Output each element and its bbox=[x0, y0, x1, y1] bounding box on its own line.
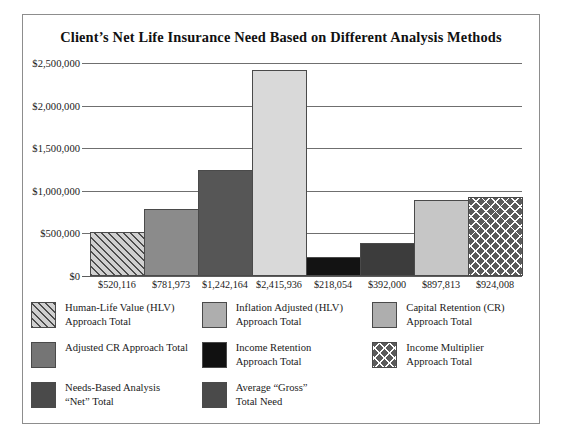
legend-label-line2: Approach Total bbox=[236, 355, 312, 369]
x-axis-tick-label: $392,000 bbox=[360, 279, 414, 290]
legend-row: Needs-Based Analysis“Net” TotalAverage “… bbox=[29, 381, 541, 421]
legend-label-line2: Approach Total bbox=[406, 315, 504, 329]
legend-label-line2: Approach Total bbox=[406, 355, 483, 369]
x-axis-tick-label: $218,054 bbox=[306, 279, 360, 290]
legend-label: Inflation Adjusted (HLV)Approach Total bbox=[236, 301, 343, 328]
bar-series bbox=[90, 63, 522, 276]
plot-area: $0$500,000$1,000,000$1,500,000$2,000,000… bbox=[90, 63, 522, 276]
x-axis-tick-label: $520,116 bbox=[90, 279, 144, 290]
legend-item[interactable]: Average “Gross”Total Need bbox=[200, 381, 371, 421]
legend-swatch bbox=[202, 342, 227, 368]
x-axis-line bbox=[82, 276, 522, 277]
legend-swatch bbox=[31, 342, 56, 368]
legend-swatch bbox=[372, 342, 397, 368]
legend-label: Needs-Based Analysis“Net” Total bbox=[65, 381, 160, 408]
legend-item[interactable]: Income MultiplierApproach Total bbox=[370, 341, 541, 381]
chart-title: Client’s Net Life Insurance Need Based o… bbox=[23, 29, 539, 46]
legend-label-line2: Approach Total bbox=[236, 315, 343, 329]
chart-frame: Client’s Net Life Insurance Need Based o… bbox=[22, 14, 540, 424]
legend-label: Average “Gross”Total Need bbox=[236, 381, 308, 408]
legend-swatch bbox=[202, 302, 227, 328]
y-axis-tick bbox=[82, 148, 90, 149]
bar bbox=[90, 232, 145, 276]
x-axis-tick-label: $897,813 bbox=[414, 279, 468, 290]
legend-swatch bbox=[31, 382, 56, 408]
x-axis-tick-label: $1,242,164 bbox=[198, 279, 252, 290]
bar bbox=[198, 170, 253, 276]
legend-item[interactable]: Capital Retention (CR)Approach Total bbox=[370, 301, 541, 341]
legend-item[interactable]: Inflation Adjusted (HLV)Approach Total bbox=[200, 301, 371, 341]
legend-item[interactable]: Income RetentionApproach Total bbox=[200, 341, 371, 381]
bar bbox=[252, 70, 307, 276]
y-axis-tick bbox=[82, 191, 90, 192]
legend-item[interactable]: Adjusted CR Approach Total bbox=[29, 341, 200, 381]
y-axis-tick-label: $1,000,000 bbox=[32, 185, 80, 196]
x-axis-tick-label: $2,415,936 bbox=[252, 279, 306, 290]
legend-item[interactable]: Needs-Based Analysis“Net” Total bbox=[29, 381, 200, 421]
legend-label: Income RetentionApproach Total bbox=[236, 341, 312, 368]
y-axis-tick-label: $2,500,000 bbox=[32, 58, 80, 69]
legend-item[interactable]: Human-Life Value (HLV)Approach Total bbox=[29, 301, 200, 341]
bar bbox=[414, 200, 469, 276]
x-axis-labels: $520,116$781,973$1,242,164$2,415,936$218… bbox=[90, 279, 522, 290]
bar bbox=[306, 257, 361, 276]
legend-label-line2: Approach Total bbox=[65, 315, 174, 329]
x-axis-tick-label: $781,973 bbox=[144, 279, 198, 290]
legend-label: Capital Retention (CR)Approach Total bbox=[406, 301, 504, 328]
legend-label: Human-Life Value (HLV)Approach Total bbox=[65, 301, 174, 328]
legend-swatch bbox=[372, 302, 397, 328]
legend-label-line2: Total Need bbox=[236, 395, 308, 409]
bar bbox=[360, 243, 415, 276]
legend-swatch bbox=[202, 382, 227, 408]
y-axis-tick-label: $2,000,000 bbox=[32, 100, 80, 111]
y-axis-tick bbox=[82, 233, 90, 234]
bar bbox=[144, 209, 199, 276]
y-axis-tick-label: $0 bbox=[69, 271, 80, 282]
legend-swatch bbox=[31, 302, 56, 328]
y-axis-tick bbox=[82, 106, 90, 107]
y-axis-tick bbox=[82, 63, 90, 64]
chart-legend: Human-Life Value (HLV)Approach TotalInfl… bbox=[29, 301, 541, 421]
legend-label: Income MultiplierApproach Total bbox=[406, 341, 483, 368]
legend-label-line2: “Net” Total bbox=[65, 395, 160, 409]
x-axis-tick-label: $924,008 bbox=[468, 279, 522, 290]
legend-row: Adjusted CR Approach TotalIncome Retenti… bbox=[29, 341, 541, 381]
y-axis-tick-label: $1,500,000 bbox=[32, 143, 80, 154]
legend-row: Human-Life Value (HLV)Approach TotalInfl… bbox=[29, 301, 541, 341]
legend-item-empty bbox=[370, 381, 541, 421]
bar bbox=[468, 197, 523, 276]
legend-label: Adjusted CR Approach Total bbox=[65, 341, 188, 355]
y-axis-tick-label: $500,000 bbox=[40, 228, 80, 239]
